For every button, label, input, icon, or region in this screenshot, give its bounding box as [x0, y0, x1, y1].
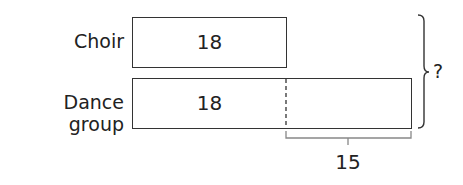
diagram-lines: [0, 0, 463, 185]
total-question-mark: ?: [430, 60, 446, 82]
difference-value: 15: [318, 150, 378, 174]
difference-bracket: [286, 131, 411, 145]
total-brace: [418, 15, 429, 128]
